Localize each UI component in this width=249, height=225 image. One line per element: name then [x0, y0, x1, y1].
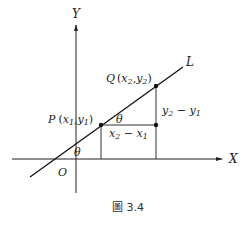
figure-caption: 圖 3.4	[112, 201, 144, 214]
point-Q-label: Q(x2,y2)	[106, 72, 152, 86]
point-Q	[154, 84, 158, 88]
slope-diagram: Y X O L θ θ P(x1,y1) Q(x2,y2) y2 − y1 x2…	[0, 0, 249, 225]
point-P	[99, 123, 103, 127]
origin-label: O	[58, 166, 67, 179]
line-L-label: L	[185, 55, 194, 69]
rise-label: y2 − y1	[161, 104, 201, 118]
y-axis-label: Y	[72, 7, 81, 21]
point-P-label: P(x1,y1)	[47, 113, 93, 127]
angle-theta-at-P: θ	[116, 113, 123, 126]
x-axis-label: X	[228, 152, 238, 166]
run-label: x2 − x1	[109, 127, 148, 141]
angle-theta-x-axis: θ	[74, 146, 81, 159]
point-corner	[154, 123, 158, 127]
